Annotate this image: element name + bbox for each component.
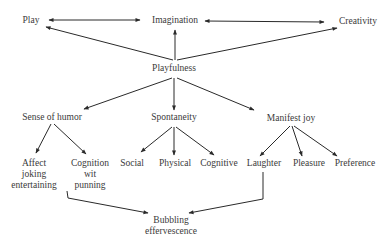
node-sense-of-humor: Sense of humor [22,112,82,123]
node-cognition: Cognition wit punning [71,158,109,191]
node-imagination: Imagination [152,15,198,26]
edge-spontaneity-cognitive [176,127,214,155]
node-affect-line1: Affect [11,158,56,169]
node-affect-line3: entertaining [11,180,56,191]
node-playfulness: Playfulness [152,63,196,74]
edge-playfulness-play [46,27,173,60]
node-cognition-line3: punning [71,180,109,191]
node-pleasure: Pleasure [293,158,325,169]
node-laughter: Laughter [247,158,281,169]
edge-imagination-creativity [205,21,324,22]
node-play: Play [23,15,40,26]
edge-playfulness-sense-of-humor [84,78,172,109]
node-bubbling-line2: effervescence [145,226,197,237]
node-social: Social [120,158,144,169]
node-cognition-line2: wit [71,169,109,180]
edge-layer [0,0,391,247]
edge-humor-cognition [54,124,86,154]
node-cognitive: Cognitive [200,158,237,169]
edge-joy-laughter [260,126,290,156]
edge-spontaneity-social [141,127,172,152]
edge-playfulness-manifest-joy [177,78,254,110]
node-preference: Preference [335,158,376,169]
node-creativity: Creativity [339,16,377,27]
node-manifest-joy: Manifest joy [267,113,315,124]
node-affect: Affect joking entertaining [11,158,56,191]
edge-affect-bubbling [67,191,148,213]
node-spontaneity: Spontaneity [151,112,196,123]
node-affect-line2: joking [11,169,56,180]
edge-laughter-bubbling [189,172,263,213]
node-bubbling-effervescence: Bubbling effervescence [145,215,197,237]
node-cognition-line1: Cognition [71,158,109,169]
edge-humor-affect [36,124,51,153]
edge-playfulness-creativity [177,28,337,60]
node-physical: Physical [159,158,191,169]
node-bubbling-line1: Bubbling [145,215,197,226]
